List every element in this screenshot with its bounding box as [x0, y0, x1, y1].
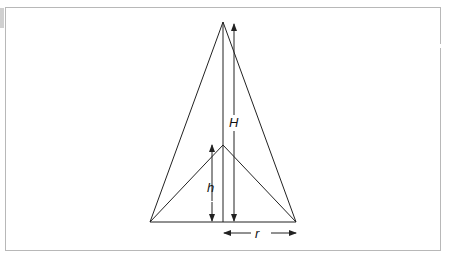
- label-r: r: [255, 226, 260, 241]
- label-H: H: [229, 115, 239, 130]
- label-h: h: [207, 180, 214, 195]
- cone-diagram: H h r: [0, 0, 451, 258]
